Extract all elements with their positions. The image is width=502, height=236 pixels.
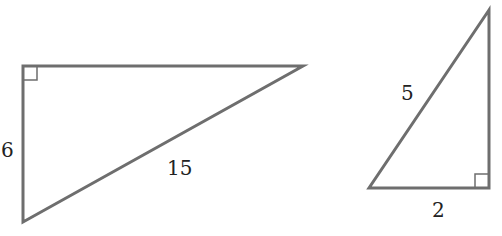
side-label-2: 2 <box>432 198 445 222</box>
side-label-5: 5 <box>401 81 414 105</box>
side-label-6: 6 <box>1 138 14 162</box>
right-angle-marker-icon <box>475 174 489 188</box>
right-angle-marker-icon <box>23 66 37 80</box>
right-triangle: 5 2 <box>369 10 489 222</box>
left-triangle: 6 15 <box>1 66 303 222</box>
right-triangle-shape <box>369 10 489 188</box>
left-triangle-shape <box>23 66 303 222</box>
diagram-canvas: 6 15 5 2 <box>0 0 502 236</box>
side-label-15: 15 <box>167 156 192 180</box>
